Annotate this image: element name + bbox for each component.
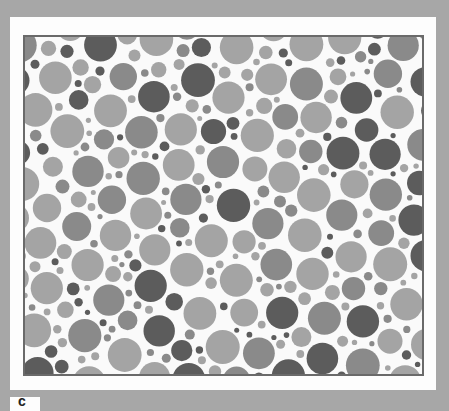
dot — [72, 249, 104, 281]
dot — [411, 240, 423, 272]
dot — [326, 58, 335, 67]
dot — [185, 239, 192, 246]
dot — [25, 204, 29, 232]
dot — [230, 299, 258, 327]
dot — [141, 69, 149, 77]
dot — [25, 227, 56, 259]
dot — [196, 346, 203, 353]
dot — [341, 303, 349, 311]
dot — [411, 329, 422, 360]
dot — [118, 311, 138, 331]
dot — [177, 44, 190, 57]
dot — [390, 288, 422, 320]
dot — [266, 297, 298, 329]
dot — [25, 37, 37, 62]
dot — [128, 95, 136, 103]
dot — [350, 71, 355, 76]
dot — [398, 238, 409, 249]
dot — [413, 163, 418, 168]
dot — [243, 337, 275, 369]
dot — [173, 93, 181, 101]
dot — [31, 272, 63, 304]
dot — [258, 321, 266, 329]
dot — [73, 366, 106, 374]
dot — [324, 90, 338, 104]
dot — [25, 93, 52, 127]
dot — [260, 37, 288, 41]
dot — [98, 186, 126, 214]
dot — [258, 242, 266, 250]
dot — [25, 313, 51, 347]
dot — [152, 153, 158, 159]
dot — [207, 146, 239, 178]
dot — [251, 252, 259, 260]
dot — [333, 271, 340, 278]
dot — [62, 212, 91, 241]
dot — [162, 354, 171, 363]
dot — [57, 302, 74, 319]
dot — [60, 45, 73, 58]
dot — [363, 209, 373, 219]
dot — [336, 117, 348, 129]
dot — [296, 129, 305, 138]
dot — [72, 59, 88, 75]
dot — [327, 234, 333, 240]
dot — [403, 326, 410, 333]
dot — [418, 37, 422, 41]
dot — [272, 359, 305, 374]
dot — [398, 205, 422, 236]
dot — [327, 137, 360, 170]
dot — [261, 249, 293, 281]
dot — [119, 262, 124, 267]
dot — [368, 59, 373, 64]
dot — [300, 102, 331, 133]
dot — [124, 250, 132, 258]
dot — [385, 365, 391, 371]
dot — [108, 338, 142, 372]
dot — [186, 99, 199, 112]
plate-card — [10, 17, 436, 390]
dot — [57, 244, 72, 259]
dot — [86, 130, 92, 136]
dot — [252, 208, 283, 239]
dot — [185, 330, 195, 340]
dot — [115, 171, 122, 178]
dot — [125, 116, 158, 149]
dot — [25, 141, 30, 165]
dot — [407, 195, 413, 201]
dot — [284, 332, 290, 338]
dot — [407, 129, 422, 161]
dot — [209, 365, 221, 374]
dot — [296, 350, 304, 358]
dot — [297, 178, 331, 212]
dot — [330, 68, 347, 85]
dot — [256, 276, 262, 282]
dot — [277, 139, 297, 159]
dot — [25, 266, 29, 291]
dot — [241, 69, 253, 81]
dot-pattern — [25, 37, 422, 374]
dot — [233, 230, 256, 253]
dot — [212, 82, 244, 114]
dot — [254, 200, 260, 206]
dot — [290, 68, 323, 101]
dot — [368, 170, 374, 176]
dot — [44, 309, 51, 316]
dot — [129, 259, 141, 271]
dot — [207, 268, 214, 275]
dot — [117, 134, 123, 140]
dot — [242, 156, 267, 181]
dot — [30, 261, 41, 272]
dot — [260, 283, 274, 297]
dot-plate — [23, 35, 424, 376]
dot — [359, 162, 367, 170]
dot — [30, 130, 42, 142]
dot — [285, 59, 292, 66]
dot — [74, 150, 79, 155]
dot — [125, 290, 132, 297]
dot — [91, 190, 96, 195]
dot — [337, 371, 346, 374]
dot — [192, 173, 204, 185]
dot — [29, 304, 36, 311]
dot — [181, 63, 215, 97]
